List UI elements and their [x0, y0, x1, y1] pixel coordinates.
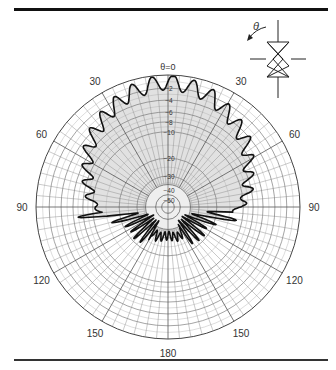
angle-tick-label: 60	[289, 129, 301, 140]
angle-tick-label: 30	[235, 76, 247, 87]
radial-tick-label: −4	[165, 97, 173, 104]
radial-tick-label: −40	[163, 187, 174, 194]
top-rule	[14, 8, 328, 11]
radial-tick-label: −6	[165, 109, 173, 116]
bottom-rule	[14, 359, 328, 361]
radial-tick-label: −10	[163, 129, 174, 136]
angle-tick-label: 30	[89, 76, 101, 87]
antenna-inset: θ	[247, 20, 306, 98]
angle-tick-label: 120	[33, 275, 50, 286]
radial-tick-label: −30	[163, 173, 174, 180]
angle-tick-label: 150	[233, 328, 250, 339]
angle-tick-label: 90	[16, 202, 28, 213]
radial-tick-label: −2	[165, 85, 173, 92]
polar-chart: −2−4−6−8−10−20−30−40−50 3060901201501801…	[0, 0, 336, 370]
radial-tick-label: −20	[163, 155, 174, 162]
angle-tick-label: 60	[36, 129, 48, 140]
polar-radiation-pattern-figure: −2−4−6−8−10−20−30−40−50 3060901201501801…	[0, 0, 336, 370]
radial-tick-label: −8	[165, 119, 173, 126]
angle-tick-label: 180	[160, 348, 177, 359]
angle-tick-label: 120	[286, 275, 303, 286]
theta-zero-label: θ=0	[160, 62, 175, 72]
angle-tick-label: 150	[87, 328, 104, 339]
angle-tick-label: 90	[308, 202, 320, 213]
radial-tick-label: −50	[163, 197, 174, 204]
